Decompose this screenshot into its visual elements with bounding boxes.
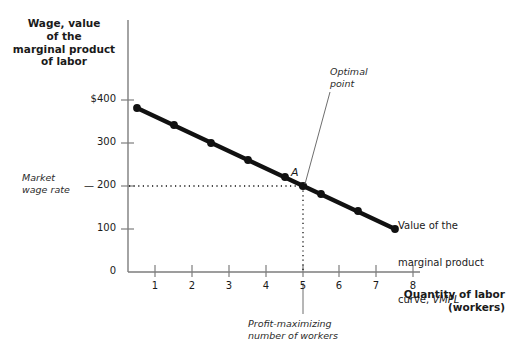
data-point [281,173,289,181]
vmpl-curve-label-prefix: curve, [398,294,432,305]
data-point [133,104,141,112]
vmpl-curve-label-line1: Value of the [398,220,503,232]
vmpl-symbol: VMPL [432,294,459,305]
x-tick-label-4: 4 [256,280,276,292]
market-wage-rate-dash: — [84,180,98,192]
optimal-point-marker [299,182,307,190]
data-point [207,139,215,147]
x-tick-label-3: 3 [219,280,239,292]
y-tick-label-400: $400 [56,93,116,105]
data-point [170,121,178,129]
market-wage-rate-label: Marketwage rate [22,172,84,195]
optimal-point-leader-line [305,92,330,184]
data-point [354,207,362,215]
vmpl-curve-label-line3: curve, VMPL [398,294,503,306]
data-point [244,156,252,164]
y-tick-label-300: 300 [56,136,116,148]
figure-container: Wage, valueof themarginal productof labo… [0,0,509,356]
y-axis-title: Wage, valueof themarginal productof labo… [10,17,118,68]
x-tick-label-5: 5 [293,280,313,292]
y-tick-label-100: 100 [56,222,116,234]
vmpl-curve-label-line2: marginal product [398,257,503,269]
point-a-label: A [291,166,299,179]
vmpl-curve-label: Value of the marginal product curve, VMP… [398,196,503,330]
y-tick-label-0: 0 [56,265,116,277]
profit-maximizing-workers-label: Profit-maximizingnumber of workers [248,318,378,341]
data-point [317,190,325,198]
x-axis-ticks [155,265,413,277]
optimal-point-label: Optimalpoint [330,66,400,89]
x-tick-label-6: 6 [329,280,349,292]
x-tick-label-7: 7 [366,280,386,292]
x-tick-label-2: 2 [182,280,202,292]
x-tick-label-1: 1 [145,280,165,292]
